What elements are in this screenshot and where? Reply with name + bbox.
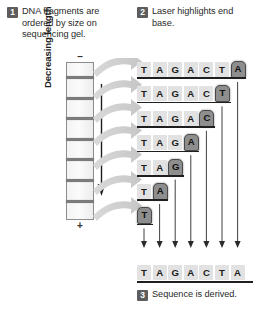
readout-arrowhead-icon [203, 241, 209, 248]
derived-base-letter: T [137, 265, 151, 280]
step-1-badge: 1 [7, 7, 18, 18]
gel-band [66, 158, 94, 161]
gel-band [66, 117, 94, 120]
derived-sequence: TAGACTA [137, 262, 246, 282]
step-2-text: Laser highlights end base. [152, 6, 256, 29]
readout-arrows-group [137, 62, 259, 252]
gel-positive-electrode-label: + [66, 222, 94, 230]
readout-arrowhead-icon [219, 241, 225, 248]
step-3-text: Sequence is derived. [152, 289, 237, 301]
gel-negative-electrode-label: – [66, 53, 94, 61]
derived-base-letter: A [153, 265, 167, 280]
derived-sequence-underline [137, 281, 253, 283]
derived-base-letter: G [168, 265, 182, 280]
gel-band [66, 200, 94, 203]
step-1-caption: 1 DNA fragments are ordered by size on s… [7, 6, 126, 41]
derived-base-letter: A [184, 265, 198, 280]
sequencing-gel: – + Decreasing length [66, 62, 94, 220]
gel-band [66, 97, 94, 100]
readout-arrowhead-icon [172, 241, 178, 248]
step-2-caption: 2 Laser highlights end base. [137, 6, 256, 29]
gel-band [66, 138, 94, 141]
derived-base-letter: T [215, 265, 229, 280]
step-2-badge: 2 [137, 7, 148, 18]
gel-lane [66, 62, 94, 220]
gel-band [66, 179, 94, 182]
step-1-text: DNA fragments are ordered by size on seq… [22, 6, 126, 41]
step-3-badge: 3 [137, 290, 148, 301]
readout-arrowhead-icon [141, 241, 147, 248]
gel-band [66, 76, 94, 79]
step-3-caption: 3 Sequence is derived. [137, 289, 237, 301]
readout-arrowhead-icon [188, 241, 194, 248]
readout-arrowhead-icon [235, 241, 241, 248]
diagram-canvas: 1 DNA fragments are ordered by size on s… [0, 0, 262, 314]
derived-base-letter: A [231, 265, 245, 280]
derived-base-letter: C [199, 265, 213, 280]
readout-arrowhead-icon [157, 241, 163, 248]
decreasing-length-label: Decreasing length [42, 7, 53, 88]
